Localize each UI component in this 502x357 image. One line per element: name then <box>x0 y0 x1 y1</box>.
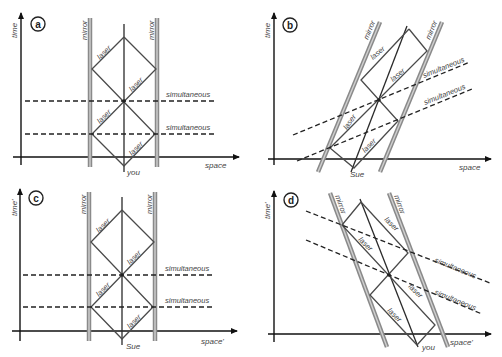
simultaneous-label: simultaneous <box>433 256 478 281</box>
simultaneous-label: simultaneous <box>165 296 209 305</box>
panel-letter: d <box>288 195 294 206</box>
observer-label: you <box>126 168 140 177</box>
space-axis-label: space' <box>201 337 224 346</box>
panel-letter: a <box>35 19 41 30</box>
laser-label: laser <box>125 312 143 330</box>
panel-letter: b <box>287 20 293 31</box>
panel-b: time space b mirror mirror simultaneous … <box>263 13 491 179</box>
panel-c: time' space' c mirror mirror simultaneou… <box>10 189 237 351</box>
time-axis-label: time' <box>10 199 19 216</box>
panel-letter: c <box>33 193 39 204</box>
laser-label: laser <box>95 107 113 125</box>
time-axis-label: time <box>263 22 272 38</box>
laser-label: laser <box>127 139 145 157</box>
simultaneity-line <box>297 89 472 161</box>
laser-label: laser <box>125 248 143 266</box>
space-axis-label: space' <box>450 338 473 347</box>
observer-label: Sue <box>126 342 141 351</box>
mirror-left <box>330 193 387 347</box>
laser-label: laser <box>94 216 112 234</box>
observer-label: you <box>421 343 435 352</box>
laser-label: laser <box>94 280 112 298</box>
laser-label: laser <box>95 43 113 61</box>
space-axis-label: space <box>459 163 481 172</box>
simultaneous-label: simultaneous <box>165 264 209 273</box>
time-axis-label: time <box>10 22 19 38</box>
observer-label: Sue <box>350 170 365 179</box>
mirror-left-label: mirror <box>79 194 88 214</box>
simultaneous-label: simultaneous <box>433 288 478 313</box>
time-axis-label: time' <box>263 202 272 219</box>
spacetime-diagram-figure: time space a mirror mirror simultaneous … <box>0 0 502 357</box>
simultaneous-label: simultaneous <box>166 90 210 99</box>
mirror-left-label: mirror <box>80 20 89 40</box>
panel-d: time' space' d mirror mirror simultaneou… <box>263 191 491 352</box>
space-axis-label: space <box>205 161 227 170</box>
panel-a: time space a mirror mirror simultaneous … <box>10 13 239 177</box>
mirror-right-label: mirror <box>145 194 154 214</box>
laser-label: laser <box>127 75 145 93</box>
simultaneous-label: simultaneous <box>166 123 210 132</box>
mirror-right-label: mirror <box>147 20 156 40</box>
